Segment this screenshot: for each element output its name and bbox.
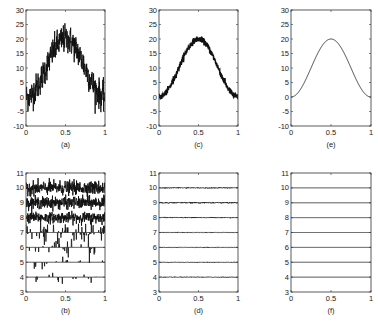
y-tick-label: 0: [285, 93, 289, 102]
y-tick-label: 15: [281, 49, 289, 58]
y-tick-label: 11: [149, 169, 157, 178]
y-tick-label: 8: [153, 213, 157, 222]
level-line: [159, 277, 238, 278]
plot-lines: [159, 187, 238, 277]
panel-caption: (e): [326, 140, 336, 149]
x-tick-label: 1: [103, 294, 107, 303]
y-tick-label: 6: [153, 243, 157, 252]
axes-frame: [26, 10, 105, 126]
panel-caption: (c): [194, 140, 203, 149]
x-tick-label: 0: [289, 294, 293, 303]
y-tick-label: 11: [16, 169, 24, 178]
x-tick-label: 0.5: [60, 128, 70, 137]
x-tick-label: 0: [24, 128, 28, 137]
y-tick-label: 10: [281, 183, 289, 192]
panel-c: -10-505101520253000.51(c): [146, 6, 240, 149]
y-tick-label: 6: [285, 243, 289, 252]
y-tick-label: -10: [278, 122, 289, 131]
y-tick-label: 25: [149, 20, 157, 29]
y-tick-label: 7: [153, 228, 157, 237]
y-tick-label: 5: [285, 258, 289, 267]
level-line: [159, 247, 238, 248]
plot-lines: [159, 36, 238, 99]
y-tick-label: 5: [153, 78, 157, 87]
y-tick-label: -5: [150, 107, 157, 116]
plot-lines: [26, 178, 105, 284]
y-tick-label: 5: [285, 78, 289, 87]
y-tick-label: 10: [149, 64, 157, 73]
y-tick-label: 30: [16, 6, 24, 15]
signal-line: [159, 36, 238, 99]
y-tick-label: 20: [16, 35, 24, 44]
plot-lines: [291, 39, 371, 97]
level-line: [26, 211, 105, 226]
signal-line: [291, 39, 371, 97]
x-tick-label: 1: [369, 128, 373, 137]
y-tick-label: 5: [20, 258, 24, 267]
panel-caption: (d): [194, 306, 204, 315]
level-line: [26, 273, 105, 284]
y-tick-label: 7: [285, 228, 289, 237]
panel-f: 3456789101100.51(f): [281, 169, 373, 315]
x-tick-label: 1: [103, 128, 107, 137]
x-tick-label: 0: [157, 128, 161, 137]
y-tick-label: 15: [16, 49, 24, 58]
y-tick-label: 10: [16, 183, 24, 192]
y-tick-label: 10: [149, 183, 157, 192]
y-tick-label: 20: [281, 35, 289, 44]
y-tick-label: 9: [20, 198, 24, 207]
level-line: [159, 202, 238, 204]
x-tick-label: 0.5: [193, 294, 203, 303]
y-tick-label: 30: [149, 6, 157, 15]
level-line: [159, 262, 238, 263]
y-tick-label: 9: [285, 198, 289, 207]
plot-lines: [26, 23, 105, 113]
y-tick-label: 5: [153, 258, 157, 267]
level-line: [159, 217, 238, 218]
y-tick-label: 25: [16, 20, 24, 29]
x-tick-label: 0: [289, 128, 293, 137]
y-tick-label: 20: [149, 35, 157, 44]
x-tick-label: 0.5: [326, 128, 336, 137]
x-tick-label: 1: [369, 294, 373, 303]
y-tick-label: 7: [20, 228, 24, 237]
y-tick-label: 0: [153, 93, 157, 102]
level-line: [26, 195, 105, 214]
x-tick-label: 1: [236, 128, 240, 137]
y-tick-label: 6: [20, 243, 24, 252]
y-tick-label: 25: [281, 20, 289, 29]
y-tick-label: 5: [20, 78, 24, 87]
x-tick-label: 0: [24, 294, 28, 303]
figure-canvas: -10-505101520253000.51(a) -10-5051015202…: [0, 0, 378, 323]
y-tick-label: -5: [17, 107, 24, 116]
y-tick-label: 10: [281, 64, 289, 73]
y-tick-label: 15: [149, 49, 157, 58]
level-line: [159, 187, 238, 188]
level-line: [159, 232, 238, 233]
y-tick-label: 9: [153, 198, 157, 207]
plot-lines: [291, 188, 371, 277]
y-tick-label: 4: [153, 273, 157, 282]
panel-a: -10-505101520253000.51(a): [13, 6, 107, 149]
level-line: [26, 234, 105, 263]
axes-frame: [291, 10, 371, 126]
panel-caption: (b): [61, 306, 71, 315]
y-tick-label: 4: [285, 273, 289, 282]
y-tick-label: 10: [16, 64, 24, 73]
x-tick-label: 1: [236, 294, 240, 303]
signal-line: [26, 23, 105, 113]
y-tick-label: 8: [285, 213, 289, 222]
panel-e: -10-505101520253000.51(e): [278, 6, 373, 149]
y-tick-label: 8: [20, 213, 24, 222]
panel-d: 3456789101100.51(d): [149, 169, 240, 315]
y-tick-label: -5: [282, 107, 289, 116]
y-tick-label: -10: [146, 122, 157, 131]
y-tick-label: -10: [13, 122, 24, 131]
y-tick-label: 0: [20, 93, 24, 102]
y-tick-label: 30: [281, 6, 289, 15]
x-tick-label: 0.5: [60, 294, 70, 303]
x-tick-label: 0.5: [326, 294, 336, 303]
panel-caption: (f): [327, 306, 335, 315]
panel-caption: (a): [61, 140, 71, 149]
level-line: [26, 257, 105, 270]
